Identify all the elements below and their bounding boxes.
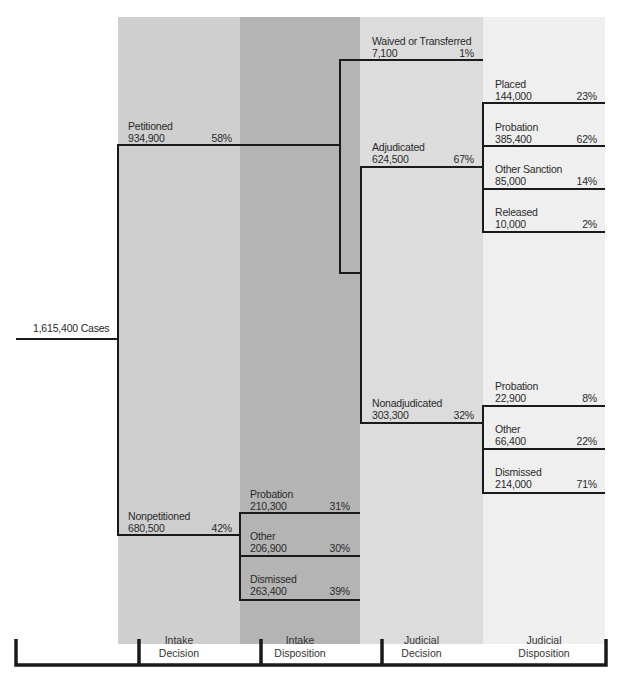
node-nadj-probation: Probation22,9008% (495, 380, 597, 404)
footer-intake-decision: IntakeDecision (118, 634, 240, 659)
node-intake-dismissed: Dismissed263,40039% (250, 573, 350, 597)
node-adjudicated: Adjudicated624,50067% (372, 141, 474, 165)
node-petitioned: Petitioned934,90058% (128, 120, 232, 144)
node-nadj-dismissed: Dismissed214,00071% (495, 466, 597, 490)
footer-judicial-disposition: JudicialDisposition (483, 634, 605, 659)
node-waived: Waived or Transferred7,1001% (372, 35, 474, 59)
footer-judicial-decision: JudicialDecision (360, 634, 483, 659)
total-cases-label: 1,615,400 Cases (33, 322, 109, 334)
node-adj-other-sanction: Other Sanction85,00014% (495, 163, 597, 187)
node-adj-probation: Probation385,40062% (495, 121, 597, 145)
node-nonpetitioned: Nonpetitioned680,50042% (128, 510, 232, 534)
node-adj-released: Released10,0002% (495, 206, 597, 230)
footer-intake-disposition: IntakeDisposition (240, 634, 360, 659)
node-adj-placed: Placed144,00023% (495, 78, 597, 102)
node-intake-other: Other206,90030% (250, 530, 350, 554)
node-nadj-other: Other66,40022% (495, 423, 597, 447)
node-intake-probation: Probation210,30031% (250, 488, 350, 512)
node-nonadjudicated: Nonadjudicated303,30032% (372, 397, 474, 421)
